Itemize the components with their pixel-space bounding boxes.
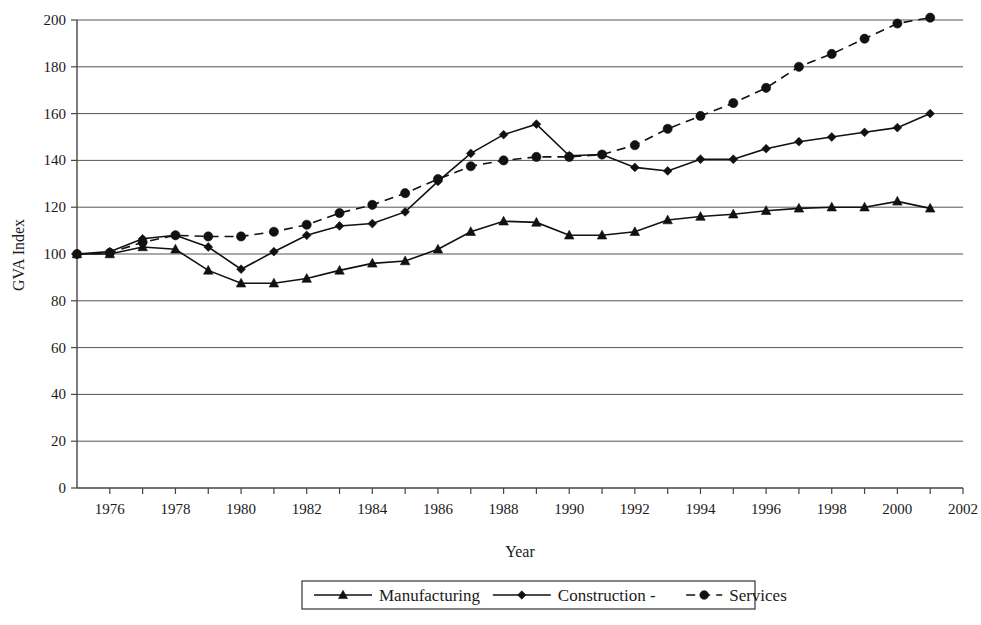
legend-item-services[interactable]: Services	[686, 586, 787, 605]
y-tick-label: 0	[59, 480, 67, 496]
data-series-group	[72, 13, 935, 287]
series-construction	[73, 109, 935, 273]
circle-marker	[700, 591, 709, 600]
x-tick-label: 2000	[882, 501, 912, 517]
circle-marker	[236, 232, 245, 241]
diamond-marker	[729, 155, 738, 164]
x-tick-label: 1976	[95, 501, 126, 517]
x-tick-label: 1994	[685, 501, 716, 517]
circle-marker	[171, 231, 180, 240]
y-tick-label: 60	[51, 340, 66, 356]
x-tick-label: 1980	[226, 501, 256, 517]
legend-label: Services	[729, 586, 787, 605]
diamond-marker	[696, 155, 705, 164]
circle-marker	[401, 189, 410, 198]
x-tick-label: 1992	[620, 501, 650, 517]
y-tick-label: 120	[44, 199, 67, 215]
circle-marker	[630, 141, 639, 150]
diamond-marker	[335, 222, 344, 231]
x-tick-label: 1988	[489, 501, 519, 517]
diamond-marker	[663, 167, 672, 176]
circle-marker	[926, 13, 935, 22]
diamond-marker	[795, 137, 804, 146]
x-tick-label: 1978	[160, 501, 190, 517]
circle-marker	[860, 34, 869, 43]
circle-marker	[335, 208, 344, 217]
legend-label: Manufacturing	[379, 586, 481, 605]
circle-marker	[729, 98, 738, 107]
circle-marker	[302, 220, 311, 229]
diamond-marker	[302, 231, 311, 240]
x-tick-label: 1996	[751, 501, 782, 517]
diamond-marker	[269, 247, 278, 256]
diamond-marker	[368, 219, 377, 228]
x-tick-label: 1986	[423, 501, 454, 517]
circle-marker	[532, 152, 541, 161]
circle-marker	[663, 124, 672, 133]
diamond-marker	[762, 144, 771, 153]
circle-marker	[466, 162, 475, 171]
legend-item-manufacturing[interactable]: Manufacturing	[314, 586, 481, 605]
x-tick-label: 2002	[948, 501, 978, 517]
circle-marker	[138, 238, 147, 247]
diamond-marker	[926, 109, 935, 118]
circle-marker	[893, 19, 902, 28]
y-tick-label: 180	[44, 59, 67, 75]
diamond-marker	[827, 133, 836, 142]
diamond-marker	[860, 128, 869, 137]
legend-item-construction[interactable]: Construction -	[493, 586, 656, 605]
triangle-marker	[204, 265, 214, 274]
x-tick-label: 1984	[357, 501, 388, 517]
diamond-marker	[518, 591, 526, 599]
gridlines-group	[77, 20, 963, 441]
circle-marker	[597, 150, 606, 159]
series-manufacturing	[72, 196, 935, 287]
y-axis-title: GVA Index	[10, 219, 27, 291]
circle-marker	[433, 175, 442, 184]
y-tick-label: 140	[44, 152, 67, 168]
y-tick-label: 160	[44, 106, 67, 122]
circle-marker	[204, 232, 213, 241]
circle-marker	[499, 156, 508, 165]
triangle-marker	[433, 244, 443, 253]
triangle-marker	[893, 196, 903, 205]
x-tick-label: 1990	[554, 501, 584, 517]
y-axis-tick-labels-group: 020406080100120140160180200	[44, 12, 67, 496]
chart-container: 020406080100120140160180200 197619781980…	[0, 0, 981, 625]
circle-marker	[827, 49, 836, 58]
circle-marker	[105, 248, 114, 257]
circle-marker	[696, 111, 705, 120]
circle-marker	[565, 152, 574, 161]
x-axis-ticks-group	[110, 488, 963, 494]
circle-marker	[794, 62, 803, 71]
diamond-marker	[204, 243, 213, 252]
x-axis-tick-labels-group: 1976197819801982198419861988199019921994…	[95, 501, 978, 517]
x-tick-label: 1998	[817, 501, 847, 517]
circle-marker	[269, 227, 278, 236]
legend-label: Construction -	[558, 586, 656, 605]
y-tick-label: 200	[44, 12, 67, 28]
y-tick-label: 80	[51, 293, 66, 309]
diamond-marker	[630, 163, 639, 172]
y-tick-label: 100	[44, 246, 67, 262]
legend: ManufacturingConstruction -Services	[302, 581, 787, 609]
circle-marker	[368, 200, 377, 209]
diamond-marker	[237, 265, 246, 274]
x-axis-title: Year	[505, 543, 535, 560]
circle-marker	[762, 83, 771, 92]
y-tick-label: 20	[51, 433, 66, 449]
diamond-marker	[499, 130, 508, 139]
y-tick-label: 40	[51, 386, 66, 402]
gva-index-line-chart: 020406080100120140160180200 197619781980…	[0, 0, 981, 625]
x-tick-label: 1982	[292, 501, 322, 517]
diamond-marker	[893, 123, 902, 132]
circle-marker	[72, 249, 81, 258]
